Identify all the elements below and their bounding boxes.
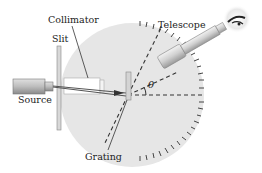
spectrometer-diagram: Collimator Slit Telescope Source Grating… — [0, 0, 262, 173]
telescope-label: Telescope — [158, 20, 206, 30]
source — [13, 79, 53, 94]
grating — [126, 72, 131, 100]
collimator — [64, 78, 104, 94]
grating-label: Grating — [85, 152, 122, 162]
source-label: Source — [18, 95, 52, 105]
slit-label: Slit — [52, 34, 68, 44]
angle-theta-label: θ — [148, 80, 154, 90]
collimator-label: Collimator — [48, 15, 99, 25]
eye-icon — [223, 5, 251, 33]
